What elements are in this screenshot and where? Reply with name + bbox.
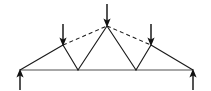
truss-diagram bbox=[0, 0, 211, 91]
top-chord-left-lower-member bbox=[20, 45, 63, 70]
reaction-arrow-right bbox=[189, 69, 196, 90]
load-arrow-left bbox=[59, 24, 66, 46]
load-arrow-center bbox=[103, 4, 110, 27]
web-right-up-member bbox=[136, 45, 151, 70]
web-left-down-member bbox=[63, 45, 78, 70]
top-chord-right-lower-member bbox=[151, 45, 193, 70]
reaction-arrow-left bbox=[16, 69, 23, 90]
truss-canvas bbox=[0, 0, 211, 91]
load-arrow-right bbox=[147, 24, 154, 46]
